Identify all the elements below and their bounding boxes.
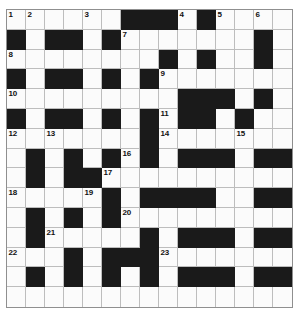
- letter-cell[interactable]: [235, 50, 254, 70]
- letter-cell[interactable]: [216, 129, 235, 149]
- letter-cell[interactable]: [273, 208, 292, 228]
- letter-cell[interactable]: [216, 168, 235, 188]
- letter-cell[interactable]: [254, 248, 273, 268]
- letter-cell[interactable]: 4: [178, 10, 197, 30]
- letter-cell[interactable]: [197, 30, 216, 50]
- letter-cell[interactable]: 21: [45, 228, 64, 248]
- letter-cell[interactable]: [45, 168, 64, 188]
- letter-cell[interactable]: 10: [7, 89, 26, 109]
- letter-cell[interactable]: 13: [45, 129, 64, 149]
- letter-cell[interactable]: [159, 208, 178, 228]
- letter-cell[interactable]: [26, 69, 45, 89]
- letter-cell[interactable]: [197, 69, 216, 89]
- letter-cell[interactable]: 16: [121, 149, 140, 169]
- letter-cell[interactable]: 11: [159, 109, 178, 129]
- letter-cell[interactable]: [45, 149, 64, 169]
- letter-cell[interactable]: [216, 50, 235, 70]
- letter-cell[interactable]: [235, 188, 254, 208]
- letter-cell[interactable]: [197, 208, 216, 228]
- letter-cell[interactable]: 6: [254, 10, 273, 30]
- letter-cell[interactable]: [159, 149, 178, 169]
- letter-cell[interactable]: 12: [7, 129, 26, 149]
- letter-cell[interactable]: [235, 208, 254, 228]
- letter-cell[interactable]: [45, 287, 64, 307]
- letter-cell[interactable]: [273, 129, 292, 149]
- letter-cell[interactable]: [102, 228, 121, 248]
- crossword-grid[interactable]: 1234567891011121314151617181920212223: [6, 9, 293, 308]
- letter-cell[interactable]: [83, 30, 102, 50]
- letter-cell[interactable]: [178, 30, 197, 50]
- letter-cell[interactable]: [121, 188, 140, 208]
- letter-cell[interactable]: [178, 248, 197, 268]
- letter-cell[interactable]: [159, 228, 178, 248]
- letter-cell[interactable]: [254, 109, 273, 129]
- letter-cell[interactable]: [254, 287, 273, 307]
- letter-cell[interactable]: [254, 208, 273, 228]
- letter-cell[interactable]: [64, 228, 83, 248]
- letter-cell[interactable]: 2: [26, 10, 45, 30]
- letter-cell[interactable]: [216, 287, 235, 307]
- letter-cell[interactable]: [45, 267, 64, 287]
- letter-cell[interactable]: [45, 208, 64, 228]
- letter-cell[interactable]: [216, 30, 235, 50]
- letter-cell[interactable]: [197, 287, 216, 307]
- letter-cell[interactable]: [64, 129, 83, 149]
- letter-cell[interactable]: [26, 109, 45, 129]
- letter-cell[interactable]: 19: [83, 188, 102, 208]
- letter-cell[interactable]: [83, 208, 102, 228]
- letter-cell[interactable]: 23: [159, 248, 178, 268]
- letter-cell[interactable]: [26, 129, 45, 149]
- letter-cell[interactable]: [159, 267, 178, 287]
- letter-cell[interactable]: [83, 267, 102, 287]
- letter-cell[interactable]: [45, 89, 64, 109]
- letter-cell[interactable]: 7: [121, 30, 140, 50]
- letter-cell[interactable]: [235, 10, 254, 30]
- letter-cell[interactable]: [102, 89, 121, 109]
- letter-cell[interactable]: [45, 248, 64, 268]
- letter-cell[interactable]: [83, 50, 102, 70]
- letter-cell[interactable]: [273, 69, 292, 89]
- letter-cell[interactable]: [7, 208, 26, 228]
- letter-cell[interactable]: [64, 188, 83, 208]
- letter-cell[interactable]: [83, 89, 102, 109]
- letter-cell[interactable]: [26, 30, 45, 50]
- letter-cell[interactable]: [140, 168, 159, 188]
- letter-cell[interactable]: [216, 109, 235, 129]
- letter-cell[interactable]: 17: [102, 168, 121, 188]
- letter-cell[interactable]: [26, 287, 45, 307]
- letter-cell[interactable]: [178, 50, 197, 70]
- letter-cell[interactable]: 14: [159, 129, 178, 149]
- letter-cell[interactable]: [121, 228, 140, 248]
- letter-cell[interactable]: [159, 30, 178, 50]
- letter-cell[interactable]: [273, 287, 292, 307]
- letter-cell[interactable]: [178, 208, 197, 228]
- letter-cell[interactable]: [235, 168, 254, 188]
- letter-cell[interactable]: [121, 50, 140, 70]
- letter-cell[interactable]: [26, 89, 45, 109]
- letter-cell[interactable]: [26, 188, 45, 208]
- letter-cell[interactable]: [273, 168, 292, 188]
- letter-cell[interactable]: [7, 168, 26, 188]
- letter-cell[interactable]: [235, 267, 254, 287]
- letter-cell[interactable]: [273, 109, 292, 129]
- letter-cell[interactable]: [235, 287, 254, 307]
- letter-cell[interactable]: [64, 287, 83, 307]
- letter-cell[interactable]: [7, 228, 26, 248]
- letter-cell[interactable]: [83, 228, 102, 248]
- letter-cell[interactable]: [159, 89, 178, 109]
- letter-cell[interactable]: [216, 208, 235, 228]
- letter-cell[interactable]: [216, 188, 235, 208]
- letter-cell[interactable]: 5: [216, 10, 235, 30]
- letter-cell[interactable]: [83, 129, 102, 149]
- letter-cell[interactable]: 8: [7, 50, 26, 70]
- letter-cell[interactable]: [273, 30, 292, 50]
- letter-cell[interactable]: [140, 208, 159, 228]
- letter-cell[interactable]: [64, 50, 83, 70]
- letter-cell[interactable]: [83, 69, 102, 89]
- letter-cell[interactable]: [178, 287, 197, 307]
- letter-cell[interactable]: [121, 109, 140, 129]
- letter-cell[interactable]: [273, 10, 292, 30]
- letter-cell[interactable]: 15: [235, 129, 254, 149]
- letter-cell[interactable]: [7, 149, 26, 169]
- letter-cell[interactable]: [235, 30, 254, 50]
